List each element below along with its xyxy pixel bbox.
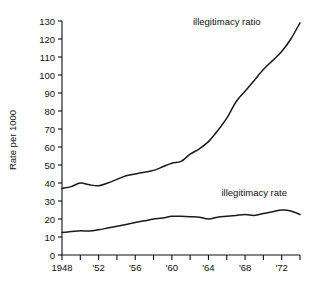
x-axis-tick-label: '56: [129, 262, 141, 273]
x-axis-tick-label: '52: [92, 262, 104, 273]
y-axis-title: Rate per 1000: [7, 110, 18, 170]
y-axis-tick-label: 10: [44, 232, 55, 243]
x-axis-tick-label: '60: [166, 262, 178, 273]
x-axis-tick-label: 1948: [51, 262, 72, 273]
series-label-illegitimacy-rate: illegitimacy rate: [221, 187, 286, 198]
x-axis-tick-label: '68: [239, 262, 251, 273]
y-axis-tick-labels: 0102030405060708090100110120130: [39, 16, 55, 261]
y-axis-ticks: [58, 21, 62, 255]
y-axis-tick-label: 70: [44, 124, 55, 135]
axis-frame: [62, 21, 300, 255]
line-illegitimacy-ratio: [62, 23, 300, 189]
y-axis-tick-label: 60: [44, 142, 55, 153]
y-axis-tick-label: 30: [44, 196, 55, 207]
y-axis-tick-label: 120: [39, 34, 55, 45]
line-chart: 0102030405060708090100110120130 1948'52'…: [0, 0, 325, 291]
chart-container: 0102030405060708090100110120130 1948'52'…: [0, 0, 325, 291]
x-axis-tick-label: '72: [275, 262, 287, 273]
y-axis-tick-label: 100: [39, 70, 55, 81]
x-axis-ticks: [62, 255, 300, 260]
y-axis-tick-label: 80: [44, 106, 55, 117]
y-axis-tick-label: 0: [50, 250, 55, 261]
y-axis-tick-label: 90: [44, 88, 55, 99]
series-labels: illegitimacy ratio illegitimacy rate: [193, 16, 287, 198]
line-illegitimacy-rate: [62, 210, 300, 233]
y-axis-tick-label: 20: [44, 214, 55, 225]
y-axis-tick-label: 50: [44, 160, 55, 171]
axis-group: 0102030405060708090100110120130 1948'52'…: [39, 16, 300, 274]
series-label-illegitimacy-ratio: illegitimacy ratio: [193, 16, 261, 27]
series-group: [62, 23, 300, 233]
y-axis-tick-label: 130: [39, 16, 55, 27]
x-axis-tick-labels: 1948'52'56'60'64'68'72: [51, 262, 287, 273]
y-axis-tick-label: 40: [44, 178, 55, 189]
x-axis-tick-label: '64: [202, 262, 214, 273]
y-axis-tick-label: 110: [40, 52, 55, 63]
